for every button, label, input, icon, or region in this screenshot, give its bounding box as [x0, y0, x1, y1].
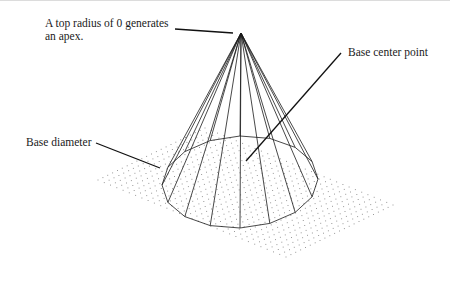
base-diameter-annotation: Base diameter — [26, 136, 91, 149]
apex-annotation-line1: A top radius of 0 generates — [45, 17, 169, 30]
apex-annotation-line2: an apex. — [45, 30, 169, 43]
ground-grid — [98, 128, 394, 258]
base-diameter-leader-line — [96, 143, 160, 168]
apex-leader-line — [175, 29, 233, 33]
apex-annotation: A top radius of 0 generates an apex. — [45, 17, 169, 43]
base-center-annotation: Base center point — [348, 46, 428, 59]
cone-wireframe — [162, 33, 318, 228]
